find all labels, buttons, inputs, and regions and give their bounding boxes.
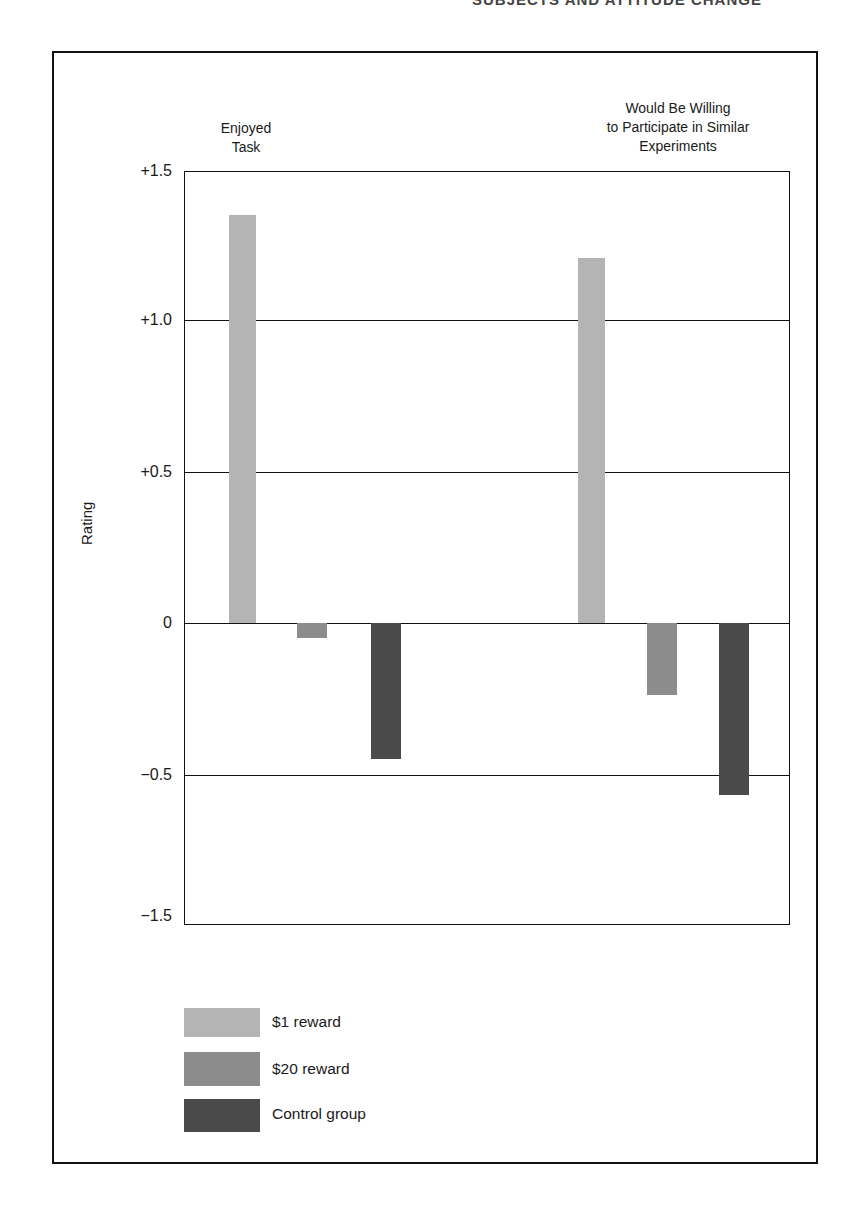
bar-1-reward-enjoyed-task [229,215,256,623]
y-axis-label: Rating [78,502,95,545]
gridline-plus-1-0 [184,320,790,321]
y-tick: −0.5 [92,767,172,783]
group-title-enjoyed-task: Enjoyed Task [192,118,300,156]
legend-label-1-reward: $1 reward [272,1013,341,1031]
group-title-line: Task [192,137,300,156]
gridline-plus-0-5 [184,472,790,473]
bar-control-group-enjoyed-task [371,623,401,759]
bar-20-reward-willing-to-participate [647,623,677,695]
group-title-line: Enjoyed [192,118,300,137]
legend-label-20-reward: $20 reward [272,1060,350,1078]
y-tick: +1.5 [92,163,172,179]
gridline-zero [184,623,790,624]
y-tick: +1.0 [92,312,172,328]
y-tick: −1.5 [92,908,172,924]
plot-area [184,171,790,925]
bar-control-group-willing-to-participate [719,623,749,795]
bar-1-reward-willing-to-participate [578,258,605,623]
legend-swatch-control-group [184,1099,260,1132]
group-title-willing-to-participate: Would Be Willing to Participate in Simil… [561,98,795,155]
y-tick: +0.5 [92,464,172,480]
gridline-minus-0-5 [184,775,790,776]
running-head: SUBJECTS AND ATTITUDE CHANGE [472,0,862,8]
group-title-line: to Participate in Similar [561,117,795,136]
legend-swatch-1-reward [184,1008,260,1037]
y-tick: 0 [92,615,172,631]
legend-label-control-group: Control group [272,1105,366,1123]
legend-swatch-20-reward [184,1052,260,1086]
group-title-line: Experiments [561,136,795,155]
bar-20-reward-enjoyed-task [297,623,327,638]
group-title-line: Would Be Willing [561,98,795,117]
